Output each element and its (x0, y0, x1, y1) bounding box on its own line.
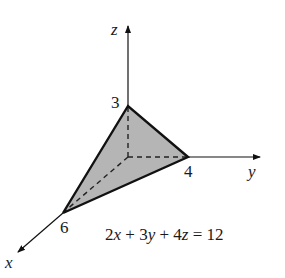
y-axis-label: y (248, 163, 256, 180)
x-intercept-label: 6 (60, 219, 69, 236)
equation-rhs: = 12 (188, 225, 223, 244)
equation-term: 2 (105, 225, 114, 244)
x-axis (18, 213, 63, 252)
z-intercept-label: 3 (111, 94, 120, 111)
y-intercept-label: 4 (184, 163, 193, 180)
equation-term: + 3 (121, 225, 148, 244)
plane-equation: 2x + 3y + 4z = 12 (105, 226, 224, 243)
z-axis-label: z (111, 21, 118, 38)
diagram-canvas: z y x 3 4 6 2x + 3y + 4z = 12 (0, 0, 285, 278)
x-axis-label: x (5, 254, 13, 271)
equation-term: + 4 (155, 225, 182, 244)
equation-variable-x: x (114, 225, 122, 244)
